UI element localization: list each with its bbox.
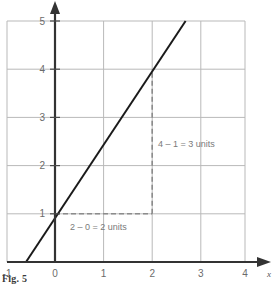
x-axis-label: x <box>266 269 271 279</box>
rise-annotation: 4 – 1 = 3 units <box>158 139 215 149</box>
figure-container: 5 4 3 2 1 -1 0 1 2 3 4 x 4 – 1 = 3 units… <box>0 0 276 285</box>
xtick-label-0: 0 <box>52 268 58 279</box>
ytick-label-2: 2 <box>39 160 45 171</box>
ytick-label-5: 5 <box>39 16 45 27</box>
xtick-label-1: 1 <box>101 268 107 279</box>
ytick-label-1: 1 <box>39 208 45 219</box>
xtick-label-3: 3 <box>198 268 204 279</box>
xtick-label-2: 2 <box>149 268 155 279</box>
coordinate-plot: 5 4 3 2 1 -1 0 1 2 3 4 x 4 – 1 = 3 units… <box>0 0 276 285</box>
figure-caption: Fig. 5 <box>2 272 27 285</box>
plot-background <box>0 0 276 285</box>
ytick-label-3: 3 <box>39 112 45 123</box>
run-annotation: 2 – 0 = 2 units <box>70 222 127 232</box>
ytick-label-4: 4 <box>39 64 45 75</box>
xtick-label-4: 4 <box>242 268 248 279</box>
